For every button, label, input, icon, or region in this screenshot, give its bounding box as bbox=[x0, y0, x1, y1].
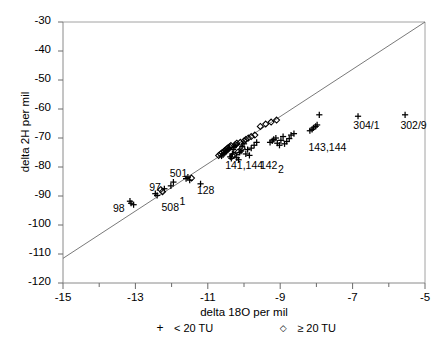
legend-item-ge-20-tu: ◇ ≥ 20 TU bbox=[275, 322, 336, 334]
point-label: 128 bbox=[197, 184, 215, 196]
point-label: 501 bbox=[170, 167, 188, 179]
plus-marker-icon: + bbox=[152, 322, 168, 334]
point-label: 2 bbox=[278, 163, 284, 175]
legend-item-lt-20-tu: + < 20 TU bbox=[152, 322, 213, 334]
point-label: 302/9 bbox=[400, 119, 426, 131]
plot-canvas bbox=[0, 0, 448, 345]
series-markers-ge-20-tu bbox=[158, 117, 280, 195]
point-label: 98 bbox=[113, 202, 125, 214]
legend-label-lt-20-tu: < 20 TU bbox=[174, 322, 213, 334]
point-label: 508 bbox=[161, 201, 179, 213]
point-label: 143,144 bbox=[308, 141, 346, 153]
point-label: 1 bbox=[180, 195, 186, 207]
point-label: 141,144 bbox=[225, 159, 263, 171]
point-label: 142 bbox=[260, 159, 278, 171]
axis-frame bbox=[63, 22, 425, 283]
tick-marks bbox=[58, 22, 425, 289]
legend-label-ge-20-tu: ≥ 20 TU bbox=[297, 322, 336, 334]
diamond-marker-icon: ◇ bbox=[275, 324, 291, 333]
point-label: 97 bbox=[149, 181, 161, 193]
point-label: 304/1 bbox=[353, 119, 379, 131]
chart-legend: + < 20 TU ◇ ≥ 20 TU bbox=[63, 322, 425, 334]
scatter-chart-figure: delta 2H per mil delta 18O per mil -30-4… bbox=[0, 0, 448, 345]
